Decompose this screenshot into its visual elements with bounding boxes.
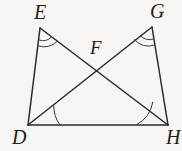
vertex-label-D: D bbox=[12, 127, 26, 147]
angle-D-arc bbox=[54, 105, 60, 125]
angle-G-arc-inner bbox=[140, 35, 154, 39]
geometry-canvas bbox=[0, 0, 182, 151]
angle-G-arc-outer bbox=[134, 39, 155, 46]
vertex-label-G: G bbox=[150, 1, 164, 21]
angle-E-arc-outer bbox=[38, 41, 57, 47]
vertex-label-F: F bbox=[90, 38, 102, 58]
geometry-figure: E G F D H bbox=[0, 0, 182, 151]
angle-H-arc bbox=[136, 102, 153, 125]
segment-ED bbox=[28, 28, 40, 125]
vertex-label-E: E bbox=[34, 2, 46, 22]
vertex-label-H: H bbox=[166, 127, 180, 147]
segment-GH bbox=[152, 27, 168, 125]
angle-E-arc-inner bbox=[39, 37, 52, 41]
segment-EH bbox=[40, 28, 168, 125]
